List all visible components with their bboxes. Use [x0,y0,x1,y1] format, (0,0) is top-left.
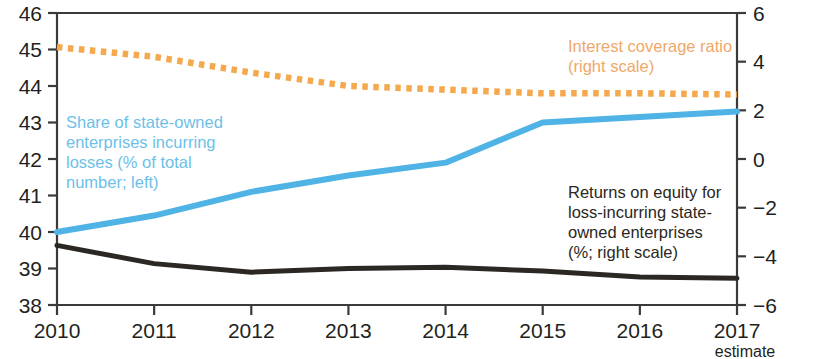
chart-container: 464544434241403938 6420−2−4−6 2010201120… [0,0,823,359]
left-tick-label-38: 38 [19,294,42,317]
left-tick-label-45: 45 [19,38,42,61]
left-tick-label-46: 46 [19,2,42,25]
right-tick-label--6: −6 [753,294,777,317]
right-axis-ticks [737,13,746,305]
x-tick-label-2015: 2015 [519,319,566,342]
left-tick-label-41: 41 [19,184,42,207]
x-tick-label-2016: 2016 [616,319,663,342]
x-tick-label-2011: 2011 [132,319,177,342]
annotation-share-of-loss-making-soes: Share of state-owned enterprises incurri… [66,112,223,192]
left-tick-label-40: 40 [19,221,42,244]
left-axis-ticks [48,13,57,305]
x-axis-estimate-note: estimate [715,343,776,359]
left-tick-label-39: 39 [19,257,42,280]
x-tick-label-2010: 2010 [34,319,81,342]
x-tick-label-2013: 2013 [325,319,372,342]
x-axis-ticks [57,305,737,315]
right-tick-label-6: 6 [753,2,765,25]
right-tick-label-2: 2 [753,99,765,122]
annotation-interest-coverage-ratio: Interest coverage ratio (right scale) [568,36,732,76]
left-tick-label-44: 44 [19,75,43,98]
left-tick-label-42: 42 [19,148,42,171]
x-tick-label-2012: 2012 [228,319,275,342]
legend-swatches [560,108,700,110]
right-tick-label-0: 0 [753,148,765,171]
x-axis-tick-labels: 20102011201220132014201520162017estimate [34,319,776,359]
right-tick-label-4: 4 [753,50,765,73]
left-axis-tick-labels: 464544434241403938 [19,2,43,317]
x-tick-label-2017: 2017 [714,319,761,342]
annotation-returns-on-equity: Returns on equity for loss-incurring sta… [568,182,721,262]
x-tick-label-2014: 2014 [422,319,469,342]
right-tick-label--2: −2 [753,196,777,219]
left-tick-label-43: 43 [19,111,42,134]
right-tick-label--4: −4 [753,245,777,268]
right-axis-tick-labels: 6420−2−4−6 [753,2,777,317]
